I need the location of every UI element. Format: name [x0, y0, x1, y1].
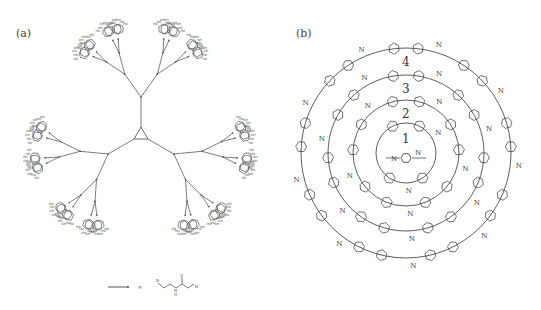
svg-text:HO: HO [56, 214, 61, 218]
svg-text:HO: HO [29, 129, 34, 133]
svg-text:N: N [435, 129, 441, 137]
svg-text:HO: HO [77, 46, 82, 50]
svg-text:HO: HO [169, 22, 174, 26]
svg-text:N: N [409, 235, 415, 243]
svg-text:HO: HO [172, 227, 177, 231]
svg-text:N: N [365, 102, 371, 110]
svg-text:HO: HO [157, 20, 162, 24]
dendrimer-branches: HOOHHOHOOHHOHOOHHOHOOHHOHOOHHOHOOHHOHOOH… [23, 18, 258, 236]
svg-text:N: N [340, 207, 346, 215]
svg-text:HO: HO [109, 21, 114, 25]
svg-text:N: N [436, 98, 442, 106]
svg-text:N: N [359, 46, 365, 54]
svg-text:N: N [486, 125, 492, 133]
svg-text:OH: OH [82, 35, 87, 39]
linker-structure-icon: ≡ O N H N N [100, 272, 210, 296]
svg-text:HO: HO [27, 148, 32, 152]
svg-text:HO: HO [247, 127, 252, 131]
svg-text:HO: HO [26, 162, 31, 166]
figure-caption-cropped [100, 304, 450, 310]
svg-text:OH: OH [49, 209, 54, 213]
ring-number-1: 1 [402, 132, 410, 146]
svg-text:OH: OH [23, 155, 28, 159]
svg-text:HO: HO [74, 57, 79, 61]
svg-text:HO: HO [181, 29, 186, 33]
svg-text:HO: HO [249, 141, 254, 145]
svg-text:HO: HO [250, 164, 255, 168]
svg-text:HO: HO [89, 230, 94, 234]
svg-text:N: N [362, 74, 368, 82]
svg-text:OH: OH [176, 22, 181, 26]
panel-b-concentric-macrocycles: (b) NN1NNNNN2NNNNNNN3NNNNNNNNN4NN [280, 0, 541, 300]
svg-text:HO: HO [76, 225, 81, 229]
svg-text:HO: HO [202, 57, 207, 61]
svg-text:HO: HO [242, 176, 247, 180]
svg-text:OH: OH [81, 231, 86, 235]
concentric-ring-diagram: NN1NNNNN2NNNNNNN3NNNNNNNNN4NN [280, 0, 541, 300]
svg-text:HO: HO [74, 53, 79, 57]
svg-text:HO: HO [27, 137, 32, 141]
svg-text:HO: HO [101, 229, 106, 233]
svg-text:N: N [407, 210, 413, 218]
svg-text:OH: OH [33, 118, 38, 122]
svg-text:HO: HO [226, 205, 231, 209]
svg-text:N: N [195, 284, 198, 289]
svg-text:N: N [498, 87, 504, 95]
svg-text:N: N [336, 240, 342, 248]
ring-number-4: 4 [402, 55, 410, 69]
svg-text:N: N [516, 162, 522, 170]
svg-text:HO: HO [31, 173, 36, 177]
svg-text:HO: HO [219, 215, 224, 219]
svg-text:N: N [474, 199, 480, 207]
svg-text:O: O [180, 273, 183, 278]
svg-text:N: N [410, 262, 416, 270]
panel-a-glycodendrimer: (a) HOOHHOHOOHHOHOOHHOHOOHHOHOOHHOHOOHHO… [0, 0, 280, 300]
svg-text:HO: HO [123, 22, 128, 26]
svg-text:N: N [436, 70, 442, 78]
svg-text:HO: HO [197, 227, 202, 231]
svg-text:HO: HO [90, 33, 95, 37]
svg-text:≡: ≡ [138, 284, 142, 290]
svg-text:N: N [415, 149, 421, 157]
svg-text:N: N [347, 172, 353, 180]
macrocycle-rings: NN1NNNNN2NNNNNNN3NNNNNNNNN4NN [294, 41, 522, 270]
svg-text:OH: OH [204, 49, 209, 53]
svg-text:OH: OH [178, 232, 183, 236]
svg-text:N: N [156, 278, 159, 283]
svg-text:H: H [174, 292, 177, 296]
svg-text:HO: HO [190, 35, 195, 39]
svg-text:OH: OH [215, 222, 220, 226]
svg-text:HO: HO [28, 141, 33, 145]
svg-text:N: N [406, 187, 412, 195]
svg-text:HO: HO [98, 26, 103, 30]
svg-text:N: N [463, 165, 469, 173]
svg-text:N: N [319, 135, 325, 143]
svg-text:OH: OH [116, 18, 121, 22]
svg-text:HO: HO [66, 221, 71, 225]
svg-text:HO: HO [40, 115, 45, 119]
svg-text:HO: HO [30, 125, 35, 129]
svg-text:HO: HO [185, 230, 190, 234]
svg-text:N: N [302, 99, 308, 107]
svg-text:N: N [391, 155, 397, 163]
svg-text:OH: OH [251, 133, 256, 137]
svg-text:OH: OH [249, 172, 254, 176]
svg-text:HO: HO [199, 44, 204, 48]
svg-text:HO: HO [207, 222, 212, 226]
svg-text:HO: HO [78, 42, 83, 46]
dendrimer-diagram: HOOHHOHOOHHOHOOHHOHOOHHOHOOHHOHOOHHOHOOH… [0, 0, 280, 300]
svg-text:HO: HO [251, 152, 256, 156]
svg-text:HO: HO [49, 202, 54, 206]
ring-number-3: 3 [402, 82, 410, 96]
svg-text:N: N [294, 176, 300, 184]
svg-text:N: N [481, 232, 487, 240]
linker-legend: ≡ O N H N N [100, 272, 210, 296]
ring-number-2: 2 [402, 107, 410, 121]
svg-text:HO: HO [239, 117, 244, 121]
svg-text:N: N [436, 41, 442, 49]
